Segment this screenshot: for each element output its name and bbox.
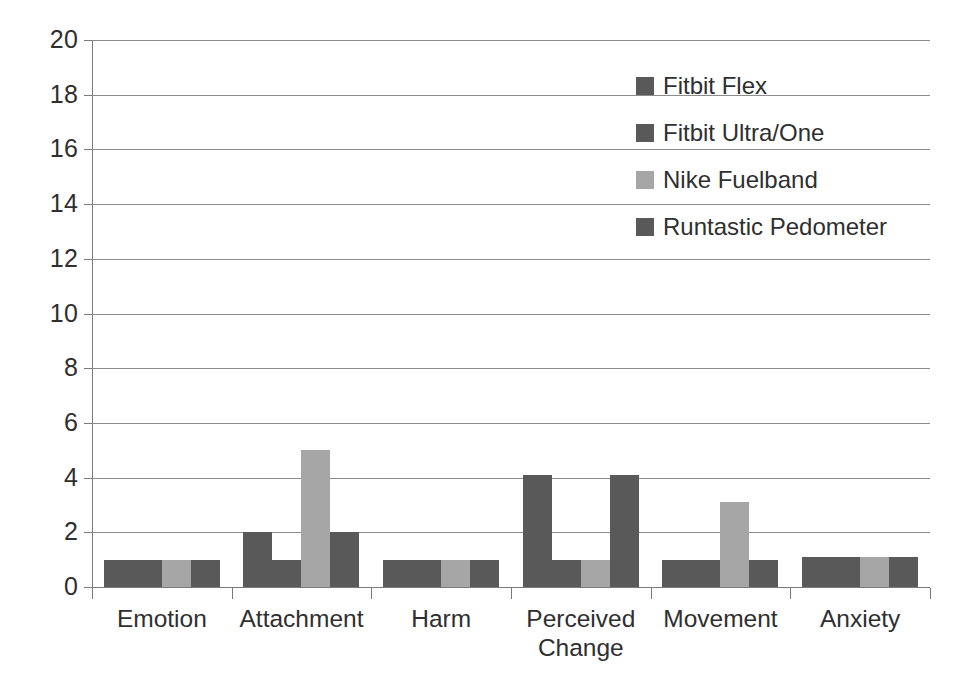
bar: [860, 557, 889, 587]
x-tick-label: Perceived Change: [511, 604, 651, 662]
legend-item: Runtastic Pedometer: [636, 203, 936, 250]
y-tick-label-6: 6: [38, 410, 78, 435]
bar: [330, 532, 359, 587]
bar: [889, 557, 918, 587]
y-tick-label-20: 20: [38, 27, 78, 52]
legend-item: Fitbit Ultra/One: [636, 109, 936, 156]
bar-group: [371, 40, 511, 587]
x-tick-label: Attachment: [232, 604, 372, 633]
legend-label: Runtastic Pedometer: [663, 215, 887, 239]
legend-swatch-icon: [636, 124, 654, 142]
chart-legend: Fitbit FlexFitbit Ultra/OneNike Fuelband…: [636, 62, 936, 250]
x-tick-3: [511, 588, 512, 599]
legend-swatch-icon: [636, 77, 654, 95]
x-tick-2: [371, 588, 372, 599]
bar: [133, 560, 162, 587]
bar: [802, 557, 831, 587]
bar: [610, 475, 639, 587]
bar: [301, 450, 330, 587]
y-tick-label-8: 8: [38, 355, 78, 380]
x-tick-5: [790, 588, 791, 599]
x-tick-0: [92, 588, 93, 599]
x-tick-4: [651, 588, 652, 599]
y-tick-label-14: 14: [38, 191, 78, 216]
bar-group: [232, 40, 372, 587]
legend-label: Fitbit Ultra/One: [663, 121, 824, 145]
x-tick-6: [930, 588, 931, 599]
x-tick-label: Emotion: [92, 604, 232, 633]
y-tick-label-0: 0: [38, 574, 78, 599]
bar-chart: 02468101214161820 EmotionAttachmentHarmP…: [0, 0, 971, 697]
bar-group: [92, 40, 232, 587]
bar-group: [511, 40, 651, 587]
bar: [470, 560, 499, 587]
bar: [831, 557, 860, 587]
x-tick-1: [232, 588, 233, 599]
y-tick-label-18: 18: [38, 82, 78, 107]
legend-item: Nike Fuelband: [636, 156, 936, 203]
bar: [243, 532, 272, 587]
y-tick-label-16: 16: [38, 136, 78, 161]
bar: [523, 475, 552, 587]
x-tick-label: Anxiety: [790, 604, 930, 633]
bar: [412, 560, 441, 587]
y-tick-label-10: 10: [38, 301, 78, 326]
legend-swatch-icon: [636, 218, 654, 236]
bar: [272, 560, 301, 587]
bar: [749, 560, 778, 587]
x-tick-label: Movement: [651, 604, 791, 633]
bar: [441, 560, 470, 587]
bar: [552, 560, 581, 587]
y-tick-label-2: 2: [38, 519, 78, 544]
bar: [104, 560, 133, 587]
bar: [162, 560, 191, 587]
y-tick-label-12: 12: [38, 246, 78, 271]
legend-label: Fitbit Flex: [663, 74, 767, 98]
bar: [383, 560, 412, 587]
legend-swatch-icon: [636, 171, 654, 189]
y-axis-labels: 02468101214161820: [20, 0, 78, 697]
bar: [720, 502, 749, 587]
legend-label: Nike Fuelband: [663, 168, 818, 192]
x-tick-label: Harm: [371, 604, 511, 633]
bar: [581, 560, 610, 587]
bar: [662, 560, 691, 587]
y-tick-label-4: 4: [38, 465, 78, 490]
bar: [191, 560, 220, 587]
legend-item: Fitbit Flex: [636, 62, 936, 109]
bar: [691, 560, 720, 587]
